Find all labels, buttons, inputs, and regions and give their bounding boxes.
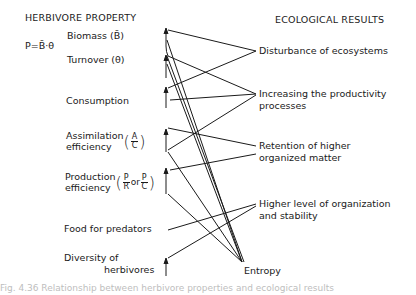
connection-lines bbox=[0, 0, 416, 295]
figure-caption: Fig. 4.36 Relationship between herbivore… bbox=[0, 283, 334, 293]
